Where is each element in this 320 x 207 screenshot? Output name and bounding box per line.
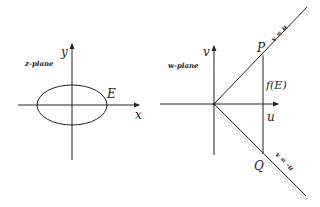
point-p-label: P [256, 41, 266, 55]
line-v-equals-u-label: v = u [269, 23, 289, 44]
u-axis-label: u [267, 110, 275, 124]
w-plane-panel: w-plane v P f(E) u Q v = u v = -u [160, 7, 307, 196]
y-axis-label: y [60, 45, 68, 59]
line-v-equals-u [214, 7, 307, 104]
curve-e-label: E [106, 87, 116, 101]
mapping-diagram: z-plane y E x w-plane v P f(E) u Q v = u… [0, 0, 320, 207]
line-v-equals-minus-u-label: v = -u [274, 150, 296, 172]
origin-point [213, 103, 216, 106]
v-axis-label: v [203, 45, 210, 59]
z-plane-panel: z-plane y E x [18, 44, 142, 160]
f-e-label: f(E) [265, 79, 287, 92]
w-plane-label: w-plane [168, 61, 199, 70]
x-axis-label: x [135, 108, 142, 122]
point-q-label: Q [254, 159, 264, 173]
z-plane-label: z-plane [24, 59, 54, 68]
line-v-equals-minus-u [214, 104, 306, 196]
